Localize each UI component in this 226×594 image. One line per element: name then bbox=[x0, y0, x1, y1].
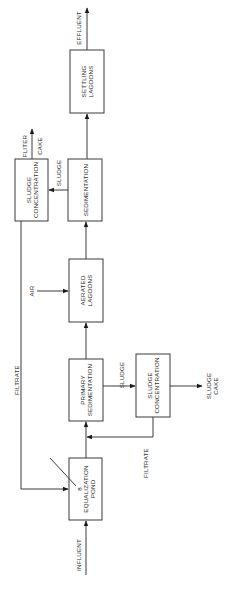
settling-lagoons-label-2: LAGOONS bbox=[87, 65, 94, 97]
primary-sedimentation-label-1: PRIMARY bbox=[79, 375, 86, 404]
influent-label: INFLUENT bbox=[75, 539, 82, 571]
equalization-pond-label-2: POND bbox=[89, 479, 96, 498]
aerated-lagoons-label-2: LAGOONS bbox=[86, 274, 93, 306]
filtrate-upper-label: FILTRATE bbox=[13, 365, 20, 395]
node-sludge-concentration-upper: SLUDGE CONCENTRATION bbox=[15, 159, 48, 221]
node-primary-sedimentation: PRIMARY SEDIMENTATION bbox=[69, 359, 103, 421]
secondary-sludge-label: SLUDGE bbox=[55, 160, 62, 187]
aerated-lagoons-label-1: AERATED bbox=[79, 275, 86, 305]
filter-cake-label-1: FLITER bbox=[21, 134, 28, 157]
effluent-label: EFFLUENT bbox=[75, 11, 82, 45]
sludge-concentration-upper-label-2: CONCENTRATION bbox=[32, 162, 39, 218]
filtrate-return-upper-arrow bbox=[21, 221, 68, 489]
settling-lagoons-label-1: SETTLING bbox=[80, 66, 87, 98]
node-settling-lagoons: SETTLING LAGOONS bbox=[70, 50, 104, 113]
node-aerated-lagoons: AERATED LAGOONS bbox=[69, 259, 103, 322]
sludge-concentration-lower-label-1: SLUDGE bbox=[146, 372, 153, 399]
node-equalization-pond: 8 EQUALIZATION POND bbox=[69, 458, 102, 520]
sludge-cake-label-1: SLUDGE bbox=[205, 373, 212, 400]
node-sludge-concentration-lower: SLUDGE CONCENTRATION bbox=[136, 354, 170, 417]
sludge-concentration-upper-label-1: SLUDGE bbox=[25, 177, 32, 204]
primary-sludge-label: SLUDGE bbox=[118, 362, 125, 389]
sludge-concentration-lower-label-2: CONCENTRATION bbox=[153, 357, 160, 413]
node-sedimentation: SEDIMENTATION bbox=[68, 159, 102, 221]
primary-sedimentation-label-2: SEDIMENTATION bbox=[86, 364, 93, 417]
wastewater-treatment-flow-diagram: 8 EQUALIZATION POND PRIMARY SEDIMENTATIO… bbox=[0, 0, 226, 594]
air-label: AIR bbox=[28, 285, 35, 296]
sedimentation-label: SEDIMENTATION bbox=[82, 164, 89, 217]
filtrate-lower-label: FILTRATE bbox=[142, 448, 149, 478]
sludge-cake-label-2: CAKE bbox=[212, 377, 219, 395]
filter-cake-label-2: CAKE bbox=[36, 137, 43, 155]
